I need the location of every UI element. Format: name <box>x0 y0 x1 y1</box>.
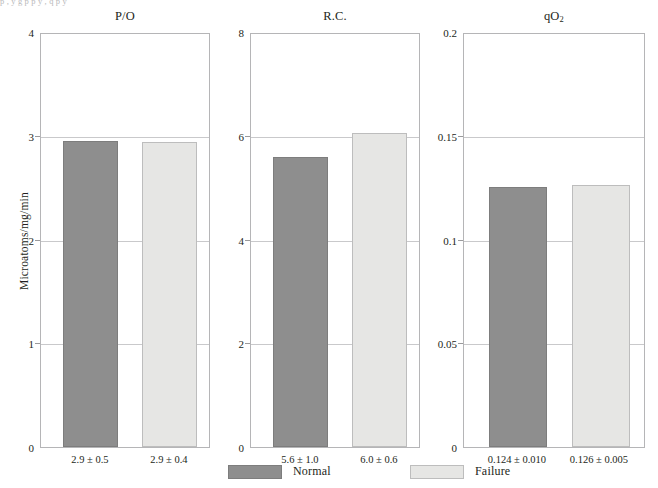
gridline <box>464 137 644 138</box>
legend-label-normal: Normal <box>293 464 331 479</box>
panel-title: qO2 <box>463 9 645 24</box>
y-tick-label: 0 <box>417 442 457 454</box>
legend-swatch-normal <box>228 465 282 479</box>
legend-swatch-failure <box>410 465 464 479</box>
y-tick-label: 0.15 <box>417 131 457 143</box>
legend-item-normal[interactable]: Normal <box>228 464 331 479</box>
chart-legend: Normal Failure <box>0 464 658 488</box>
legend-label-failure: Failure <box>475 464 510 479</box>
chart-canvas: p , y g p p y , q p y Microatoms/mg/min … <box>0 0 658 488</box>
bar-normal[interactable] <box>489 187 547 447</box>
legend-item-failure[interactable]: Failure <box>410 464 510 479</box>
y-tick-label: 0.2 <box>417 27 457 39</box>
plot-area <box>463 33 645 448</box>
bar-failure[interactable] <box>572 185 630 447</box>
y-tick-label: 0.1 <box>417 235 457 247</box>
y-tick-mark <box>458 136 463 137</box>
y-tick-mark <box>458 343 463 344</box>
y-tick-label: 0.05 <box>417 338 457 350</box>
chart-panel: qO200.050.10.150.20.124 ± 0.0100.126 ± 0… <box>0 0 658 488</box>
y-tick-mark <box>458 240 463 241</box>
